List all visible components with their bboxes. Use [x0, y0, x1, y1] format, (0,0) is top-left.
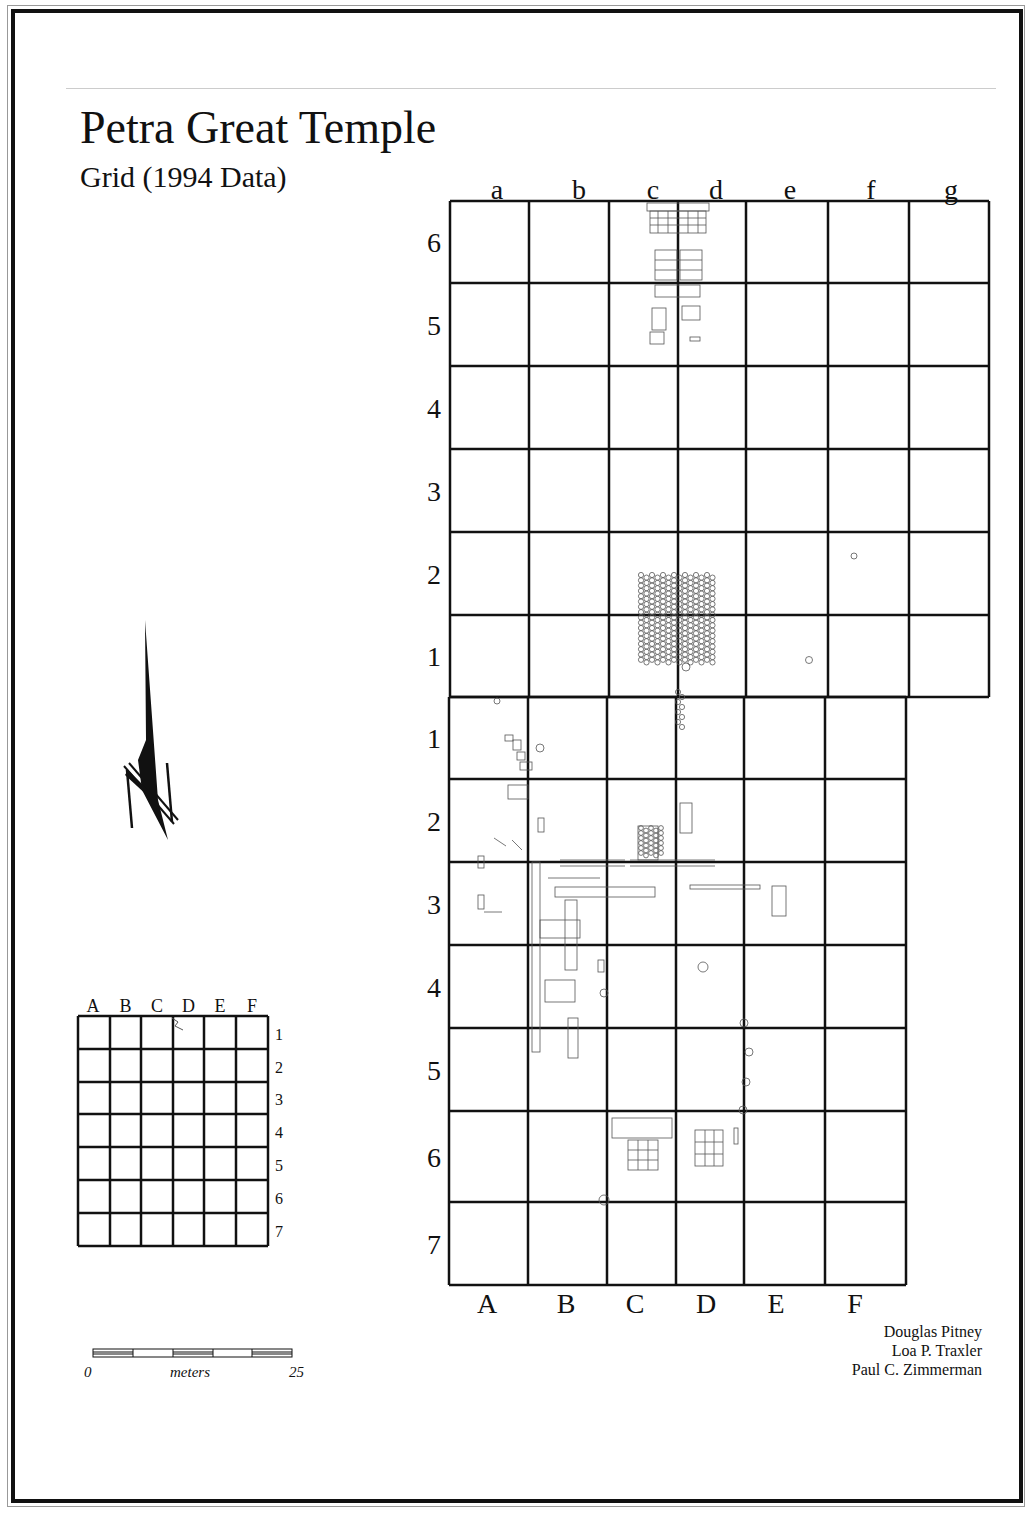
credit-author: Paul C. Zimmerman: [852, 1360, 982, 1379]
lower-row-label: 5: [427, 1055, 441, 1086]
scale-bar: [93, 1349, 292, 1357]
key-column-label: C: [151, 996, 163, 1016]
key-column-label: B: [119, 996, 131, 1016]
lower-row-label: 1: [427, 723, 441, 754]
feature-south-corridor: [532, 803, 786, 1205]
key-row-label: 4: [275, 1124, 283, 1141]
upper-column-label: d: [709, 174, 723, 205]
north-arrow-icon: [124, 620, 178, 840]
key-row-label: 1: [275, 1026, 283, 1043]
upper-column-label: g: [944, 174, 958, 205]
upper-grid: [450, 201, 989, 697]
key-column-label: F: [247, 996, 257, 1016]
key-row-label: 6: [275, 1190, 283, 1207]
upper-row-label: 1: [427, 641, 441, 672]
lower-column-label: C: [626, 1288, 645, 1319]
upper-column-label: c: [647, 174, 659, 205]
key-column-label: A: [87, 996, 100, 1016]
lower-column-label: F: [847, 1288, 863, 1319]
scale-end-label: 25: [289, 1364, 304, 1381]
lower-column-label: B: [557, 1288, 576, 1319]
upper-column-label: b: [572, 174, 586, 205]
key-row-label: 7: [275, 1223, 283, 1240]
map-canvas: abcdefg 654321 ABCDEF 1234567: [0, 0, 1034, 1516]
scale-unit-label: meters: [170, 1364, 210, 1381]
lower-column-label: A: [477, 1288, 498, 1319]
lower-grid-row-labels: 1234567: [427, 723, 441, 1260]
lower-row-label: 4: [427, 972, 441, 1003]
upper-grid-row-labels: 654321: [427, 227, 441, 672]
upper-row-label: 6: [427, 227, 441, 258]
key-row-label: 2: [275, 1059, 283, 1076]
lower-row-label: 7: [427, 1229, 441, 1260]
credit-author: Douglas Pitney: [852, 1322, 982, 1341]
key-map-grid: [78, 1016, 268, 1246]
lower-row-label: 6: [427, 1142, 441, 1173]
credit-author: Loa P. Traxler: [852, 1341, 982, 1360]
scale-start-label: 0: [84, 1364, 92, 1381]
upper-row-label: 2: [427, 559, 441, 590]
key-map-column-labels: ABCDEF: [87, 996, 258, 1016]
lower-row-label: 2: [427, 806, 441, 837]
upper-row-label: 5: [427, 310, 441, 341]
excavation-features: [478, 203, 857, 1205]
lower-column-label: E: [767, 1288, 784, 1319]
key-map-row-labels: 1234567: [275, 1026, 283, 1240]
key-row-label: 5: [275, 1157, 283, 1174]
lower-column-label: D: [696, 1288, 716, 1319]
upper-column-label: f: [866, 174, 876, 205]
upper-column-label: e: [784, 174, 796, 205]
key-column-label: E: [215, 996, 226, 1016]
lower-grid-column-labels: ABCDEF: [477, 1288, 863, 1319]
key-row-label: 3: [275, 1091, 283, 1108]
upper-row-label: 3: [427, 476, 441, 507]
upper-column-label: a: [491, 174, 504, 205]
credits: Douglas Pitney Loa P. Traxler Paul C. Zi…: [852, 1322, 982, 1379]
upper-row-label: 4: [427, 393, 441, 424]
lower-row-label: 3: [427, 889, 441, 920]
feature-west-walls: [478, 735, 544, 912]
key-column-label: D: [182, 996, 195, 1016]
